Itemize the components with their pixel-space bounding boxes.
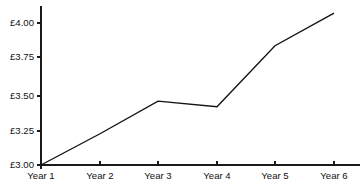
y-axis-tick-label: £3.25 [10,125,34,136]
y-axis-label-group: £3.00£3.25£3.50£3.75£4.00 [10,17,34,170]
x-axis-tick-label: Year 6 [320,170,347,181]
y-axis-tick-label: £3.00 [10,159,34,170]
x-axis-tick-label: Year 5 [261,170,288,181]
y-axis-tick-group [37,23,41,165]
x-axis-tick-label: Year 2 [86,170,113,181]
x-axis-tick-label: Year 1 [27,170,54,181]
y-axis-tick-label: £4.00 [10,17,34,28]
chart-axes [41,6,360,165]
data-series-group [41,13,334,165]
y-axis-tick-label: £3.75 [10,51,34,62]
chart-canvas: £3.00£3.25£3.50£3.75£4.00 Year 1Year 2Ye… [0,0,363,195]
x-axis-tick-label: Year 4 [203,170,231,181]
x-axis-tick-label: Year 3 [144,170,171,181]
series-line-path [41,13,334,165]
y-axis-tick-label: £3.50 [10,90,34,101]
x-axis-label-group: Year 1Year 2Year 3Year 4Year 5Year 6 [27,170,347,181]
line-chart-figure: £3.00£3.25£3.50£3.75£4.00 Year 1Year 2Ye… [0,0,363,195]
